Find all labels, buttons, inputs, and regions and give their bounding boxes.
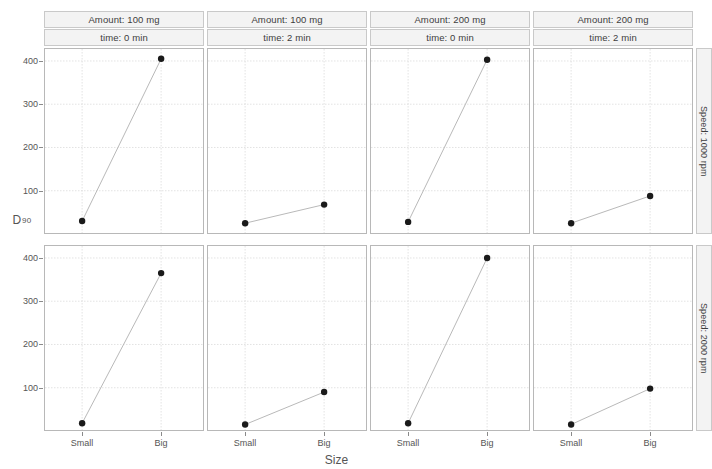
y-tick-label-r1-100: 100 (10, 383, 38, 393)
panel-r1-c3 (533, 245, 693, 431)
x-tick-mark-c3-1 (650, 432, 651, 436)
panel-r0-c3 (533, 48, 693, 234)
y-tick-mark-r1-300 (39, 301, 43, 302)
y-tick-mark-r1-100 (39, 388, 43, 389)
series-line (82, 273, 161, 423)
data-point-small (405, 219, 411, 225)
strip-header-time-col0: time: 0 min (44, 29, 204, 46)
x-tick-mark-c1-1 (324, 432, 325, 436)
panel-plot-area (45, 49, 203, 233)
x-tick-mark-c0-0 (82, 432, 83, 436)
x-tick-mark-c2-1 (487, 432, 488, 436)
series-line (408, 258, 487, 423)
y-tick-label-r0-100: 100 (10, 186, 38, 196)
series-line (245, 392, 324, 424)
data-point-big (321, 201, 327, 207)
y-axis-title-base: D (13, 213, 22, 227)
data-point-big (484, 255, 490, 261)
x-tick-label-c1-small: Small (234, 438, 257, 448)
y-axis-title: D90 (2, 190, 42, 250)
strip-header-speed-row0: Speed: 1000 rpm (696, 48, 712, 234)
series-line (408, 60, 487, 222)
strip-header-speed-row1: Speed: 2000 rpm (696, 245, 712, 431)
data-point-small (242, 421, 248, 427)
series-line (82, 59, 161, 221)
y-tick-mark-r0-300 (39, 104, 43, 105)
x-tick-mark-c2-0 (408, 432, 409, 436)
data-point-small (568, 220, 574, 226)
x-tick-label-c2-big: Big (481, 438, 494, 448)
x-tick-label-c3-small: Small (560, 438, 583, 448)
panel-r0-c0 (44, 48, 204, 234)
panel-plot-area (534, 49, 692, 233)
x-axis-title: Size (0, 453, 673, 467)
panel-plot-area (371, 246, 529, 430)
y-tick-mark-r0-400 (39, 61, 43, 62)
y-tick-label-r1-300: 300 (10, 296, 38, 306)
x-tick-mark-c3-0 (571, 432, 572, 436)
panel-plot-area (371, 49, 529, 233)
x-tick-label-c0-small: Small (71, 438, 94, 448)
x-tick-label-c3-big: Big (644, 438, 657, 448)
x-tick-label-c0-big: Big (155, 438, 168, 448)
x-tick-mark-c1-0 (245, 432, 246, 436)
x-tick-label-c2-small: Small (397, 438, 420, 448)
data-point-small (242, 220, 248, 226)
y-tick-label-r1-200: 200 (10, 339, 38, 349)
strip-header-amount-col0: Amount: 100 mg (44, 11, 204, 28)
strip-header-amount-col3: Amount: 200 mg (533, 11, 693, 28)
y-tick-label-r1-400: 400 (10, 253, 38, 263)
panel-r1-c2 (370, 245, 530, 431)
data-point-small (568, 421, 574, 427)
panel-r0-c1 (207, 48, 367, 234)
data-point-big (158, 270, 164, 276)
data-point-big (321, 389, 327, 395)
data-point-small (405, 420, 411, 426)
y-axis-title-subscript: 90 (22, 216, 32, 225)
data-point-small (79, 420, 85, 426)
data-point-big (647, 385, 653, 391)
series-line (571, 389, 650, 425)
strip-header-time-col1: time: 2 min (207, 29, 367, 46)
y-tick-mark-r1-200 (39, 344, 43, 345)
panel-plot-area (208, 246, 366, 430)
panel-r1-c0 (44, 245, 204, 431)
x-tick-mark-c0-1 (161, 432, 162, 436)
series-line (245, 205, 324, 224)
y-tick-label-r0-400: 400 (10, 56, 38, 66)
panel-plot-area (208, 49, 366, 233)
strip-header-amount-col1: Amount: 100 mg (207, 11, 367, 28)
series-line (571, 196, 650, 223)
strip-header-time-col3: time: 2 min (533, 29, 693, 46)
y-tick-label-r0-200: 200 (10, 142, 38, 152)
data-point-small (79, 218, 85, 224)
panel-plot-area (534, 246, 692, 430)
strip-header-time-col2: time: 0 min (370, 29, 530, 46)
y-tick-mark-r0-200 (39, 147, 43, 148)
data-point-big (647, 193, 653, 199)
strip-header-amount-col2: Amount: 200 mg (370, 11, 530, 28)
panel-plot-area (45, 246, 203, 430)
panel-r0-c2 (370, 48, 530, 234)
data-point-big (484, 56, 490, 62)
panel-r1-c1 (207, 245, 367, 431)
y-tick-mark-r0-100 (39, 191, 43, 192)
data-point-big (158, 56, 164, 62)
x-tick-label-c1-big: Big (318, 438, 331, 448)
y-tick-mark-r1-400 (39, 258, 43, 259)
y-tick-label-r0-300: 300 (10, 99, 38, 109)
